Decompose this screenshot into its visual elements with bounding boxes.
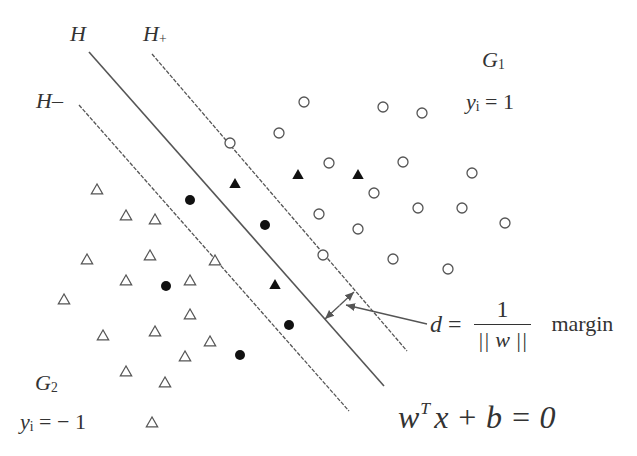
equation-T: T — [420, 398, 430, 418]
margin-formula: d = 1 || w || margin — [430, 297, 613, 351]
open-circle-point — [443, 264, 453, 274]
filled-circle-point — [161, 281, 171, 291]
label-G1-sub: 1 — [498, 57, 505, 72]
open-triangle-point — [204, 336, 215, 346]
margin-fraction: 1 || w || — [474, 297, 532, 351]
data-points — [58, 97, 510, 427]
margin-arrow-up — [340, 292, 355, 306]
margin-equals: = — [442, 312, 468, 336]
open-triangle-point — [120, 275, 131, 285]
label-G2-main: G — [35, 370, 51, 395]
label-y1: yi = 1 — [466, 91, 514, 114]
open-circle-point — [369, 188, 379, 198]
label-y1-rest: = 1 — [480, 89, 514, 114]
label-H-minus-main: H — [36, 88, 52, 113]
label-G2-sub: 2 — [51, 380, 58, 395]
filled-circle-point — [185, 195, 195, 205]
filled-circle-point — [284, 320, 294, 330]
label-H-plus-sub: + — [159, 31, 167, 46]
label-H-minus: H– — [36, 90, 63, 112]
open-circle-point — [413, 203, 423, 213]
open-triangle-point — [149, 326, 160, 336]
open-circle-point — [299, 97, 309, 107]
open-triangle-point — [81, 254, 92, 264]
open-triangle-point — [209, 255, 220, 265]
label-y2-main: y — [20, 409, 30, 434]
open-triangle-point — [184, 275, 195, 285]
open-circle-point — [417, 108, 427, 118]
filled-circle-point — [235, 350, 245, 360]
filled-triangle-point — [229, 178, 240, 188]
label-G1-main: G — [482, 47, 498, 72]
open-triangle-point — [97, 330, 108, 340]
open-circle-point — [398, 157, 408, 167]
filled-triangle-point — [352, 169, 363, 179]
label-y2: yi = − 1 — [20, 411, 86, 434]
margin-arrows — [325, 292, 427, 324]
open-triangle-point — [120, 210, 131, 220]
label-y2-rest: = − 1 — [34, 409, 86, 434]
label-y1-main: y — [466, 89, 476, 114]
label-G2: G2 — [35, 372, 58, 395]
margin-text: margin — [551, 313, 613, 335]
label-G1: G1 — [482, 49, 505, 72]
filled-triangle-point — [269, 279, 280, 289]
open-circle-point — [324, 158, 334, 168]
margin-pointer-arrow — [346, 305, 427, 324]
open-circle-point — [353, 224, 363, 234]
svm-diagram — [0, 0, 637, 456]
line-H — [89, 52, 384, 386]
open-triangle-point — [58, 294, 69, 304]
hyperplane-equation: wTx + b = 0 — [398, 400, 556, 433]
open-circle-point — [467, 168, 477, 178]
open-triangle-point — [149, 214, 160, 224]
equation-rest: x + b = 0 — [434, 399, 555, 435]
fraction-numerator: 1 — [474, 297, 532, 324]
label-H: H — [70, 23, 86, 45]
label-H-plus: H+ — [143, 23, 167, 46]
margin-d: d — [430, 312, 442, 336]
open-triangle-point — [179, 351, 190, 361]
fraction-denominator: || w || — [474, 324, 532, 351]
label-H-minus-sub: – — [52, 88, 63, 113]
open-circle-point — [274, 128, 284, 138]
filled-triangle-point — [292, 169, 303, 179]
open-circle-point — [388, 254, 398, 264]
label-H-plus-main: H — [143, 21, 159, 46]
open-triangle-point — [120, 366, 131, 376]
open-circle-point — [457, 203, 467, 213]
equation-w: w — [398, 399, 419, 435]
open-triangle-point — [184, 309, 195, 319]
open-triangle-point — [159, 377, 170, 387]
open-circle-point — [225, 138, 235, 148]
open-circle-point — [500, 218, 510, 228]
filled-circle-point — [260, 220, 270, 230]
margin-arrow-down — [325, 306, 340, 320]
open-triangle-point — [144, 250, 155, 260]
open-triangle-point — [146, 417, 157, 427]
open-circle-point — [378, 102, 388, 112]
open-circle-point — [318, 250, 328, 260]
open-triangle-point — [91, 184, 102, 194]
open-circle-point — [314, 209, 324, 219]
